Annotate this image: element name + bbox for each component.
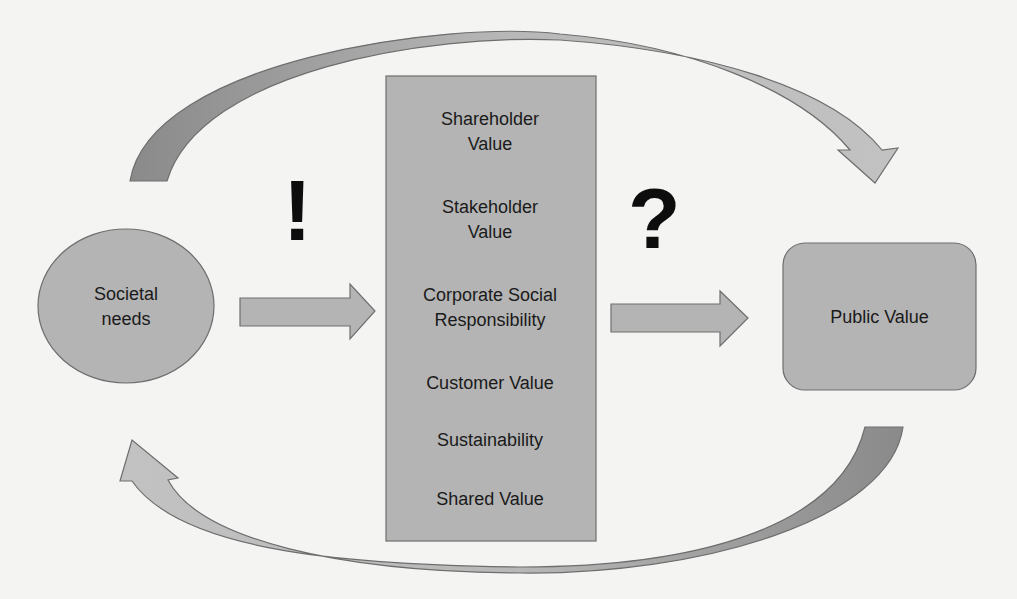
left-arrow xyxy=(240,284,375,339)
item-line: Corporate Social xyxy=(385,283,595,308)
item-line: Shareholder xyxy=(385,107,595,132)
item-customer-value: Customer Value xyxy=(385,371,595,396)
exclamation-mark: ! xyxy=(283,160,312,260)
question-mark: ? xyxy=(628,168,681,268)
societal-needs-label: Societal needs xyxy=(38,282,214,332)
item-line: Responsibility xyxy=(385,308,595,333)
item-shared-value: Shared Value xyxy=(385,487,595,512)
item-corporate-social-responsibility: Corporate Social Responsibility xyxy=(385,283,595,333)
item-line: Stakeholder xyxy=(385,195,595,220)
item-line: Value xyxy=(385,220,595,245)
item-sustainability: Sustainability xyxy=(385,428,595,453)
item-shareholder-value: Shareholder Value xyxy=(385,107,595,157)
item-line: Value xyxy=(385,132,595,157)
right-arrow xyxy=(611,291,748,346)
item-stakeholder-value: Stakeholder Value xyxy=(385,195,595,245)
public-value-label: Public Value xyxy=(783,305,976,330)
societal-needs-line1: Societal xyxy=(38,282,214,307)
societal-needs-line2: needs xyxy=(38,307,214,332)
